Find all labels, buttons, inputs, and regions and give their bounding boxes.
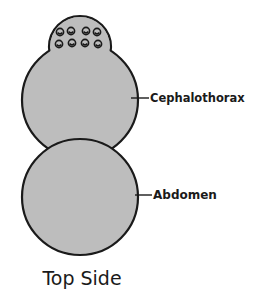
- abdomen-shape: [22, 139, 138, 255]
- diagram-title: Top Side: [41, 267, 121, 289]
- eye-icon: [93, 28, 100, 35]
- abdomen-label: Abdomen: [153, 188, 217, 202]
- cephalothorax-label: Cephalothorax: [150, 91, 245, 105]
- eye-icon: [55, 40, 62, 47]
- head-seam-fill: [52, 50, 108, 80]
- eye-icon: [56, 28, 63, 35]
- spider-top-side-diagram: Cephalothorax Abdomen Top Side: [0, 0, 273, 298]
- eye-icon: [94, 40, 101, 47]
- eye-icon: [81, 39, 88, 46]
- eye-icon: [82, 27, 89, 34]
- eye-icon: [68, 39, 75, 46]
- eye-icon: [67, 27, 74, 34]
